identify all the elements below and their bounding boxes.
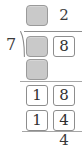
subtraction-row-1-tens-box[interactable]: 1 (26, 85, 48, 106)
quotient-tens-input[interactable] (26, 5, 48, 26)
division-vinculum-rule (24, 31, 82, 32)
quotient-ones-digit: 2 (53, 5, 75, 26)
product-separator-rule (20, 81, 82, 82)
dividend-tens-input[interactable] (26, 36, 48, 57)
long-division-problem: 2 7 8 1 8 1 4 4 (0, 0, 84, 150)
division-bracket-icon (20, 31, 25, 57)
remainder-separator-rule (22, 131, 82, 132)
dividend-ones-box[interactable]: 8 (53, 36, 75, 57)
subtraction-row-2-tens-box[interactable]: 1 (26, 110, 48, 131)
product-tens-input[interactable] (26, 59, 48, 80)
subtraction-row-2-ones-box[interactable]: 4 (53, 110, 75, 131)
divisor-digit: 7 (6, 37, 16, 53)
subtraction-row-1-ones-box[interactable]: 8 (53, 85, 75, 106)
remainder-digit: 4 (53, 133, 75, 148)
